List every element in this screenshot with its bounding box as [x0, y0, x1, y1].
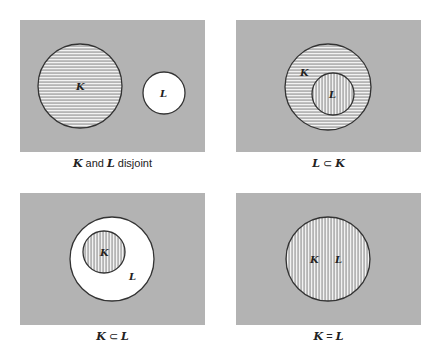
caption-l: L: [121, 330, 129, 343]
caption-l: L: [312, 157, 320, 170]
venn-l-subset-k-panel: K L: [236, 20, 421, 152]
caption-k: K: [73, 157, 83, 170]
caption-k-subset-l: K ⊂ L: [20, 330, 205, 343]
caption-k: K: [96, 330, 106, 343]
venn-k-equals-l-svg: K L: [236, 193, 421, 325]
caption-k: K: [335, 157, 345, 170]
caption-disjoint: K and L disjoint: [20, 157, 205, 170]
caption-k: K: [314, 330, 324, 343]
venn-l-subset-k-svg: K L: [236, 20, 421, 152]
set-l-label: L: [334, 254, 342, 265]
set-k-label: K: [309, 254, 320, 265]
venn-k-subset-l-svg: K L: [20, 193, 205, 325]
set-k-label: K: [299, 67, 310, 78]
caption-l-subset-k: L ⊂ K: [236, 157, 421, 170]
set-kl-circle: [286, 217, 370, 301]
set-l-label: L: [159, 88, 167, 99]
caption-and: and: [83, 157, 107, 169]
venn-k-equals-l-panel: K L: [236, 193, 421, 325]
caption-disjoint-word: disjoint: [115, 157, 152, 169]
caption-equals-symbol: =: [323, 330, 336, 342]
set-k-label: K: [99, 247, 110, 258]
caption-l: L: [107, 157, 115, 170]
venn-disjoint-svg: K L: [20, 20, 205, 152]
caption-subset-symbol: ⊂: [320, 157, 335, 169]
caption-k-equals-l: K = L: [236, 330, 421, 343]
set-l-label: L: [328, 89, 336, 100]
caption-subset-symbol: ⊂: [106, 330, 121, 342]
caption-l: L: [336, 330, 344, 343]
venn-k-subset-l-panel: K L: [20, 193, 205, 325]
set-k-label: K: [75, 81, 86, 92]
venn-disjoint-panel: K L: [20, 20, 205, 152]
set-l-label: L: [128, 271, 136, 282]
